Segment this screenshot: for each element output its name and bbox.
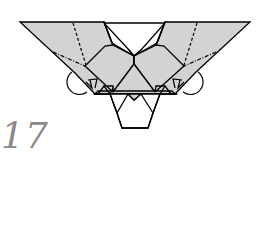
step-number: 17 — [1, 118, 49, 154]
hexagonal-head-flap — [110, 94, 160, 128]
